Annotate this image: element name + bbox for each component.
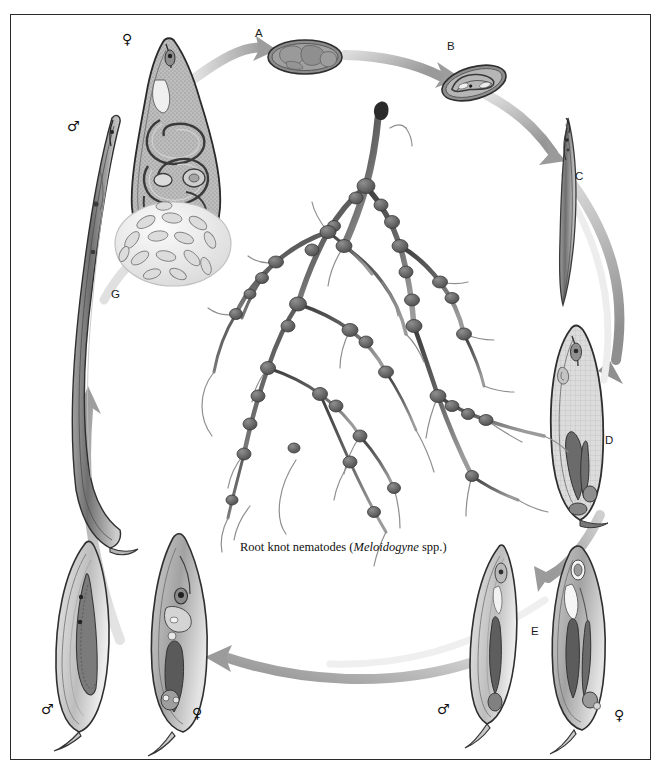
life-cycle-illustration bbox=[0, 0, 664, 774]
stage-label-e: E bbox=[531, 625, 539, 637]
stage-e-female bbox=[550, 546, 605, 754]
male-symbol-adult-male: ♂ bbox=[67, 119, 80, 133]
figure-caption: Root knot nematodes (Meloidogyne spp.) bbox=[240, 540, 500, 555]
stage-label-d: D bbox=[605, 434, 614, 446]
stage-e-male bbox=[465, 545, 517, 748]
stage-label-b: B bbox=[447, 40, 455, 52]
female-symbol-bottom-right: ♀ bbox=[614, 708, 624, 722]
adult-male-vermiform bbox=[73, 115, 138, 554]
caption-scientific-name: Meloidogyne bbox=[354, 540, 419, 554]
stage-label-c: C bbox=[575, 170, 584, 182]
mature-female-in-root bbox=[148, 534, 207, 756]
egg-mass bbox=[115, 201, 231, 286]
caption-prefix: Root knot nematodes ( bbox=[240, 540, 354, 554]
mature-male-in-root bbox=[54, 541, 109, 751]
stage-label-a: A bbox=[255, 27, 263, 39]
male-symbol-bottom-right: ♂ bbox=[437, 702, 450, 716]
stage-label-g: G bbox=[111, 288, 120, 300]
female-symbol-bottom-left: ♀ bbox=[192, 706, 202, 720]
stage-c-j2-juvenile bbox=[560, 118, 576, 305]
stage-a-egg bbox=[268, 40, 342, 74]
caption-suffix: spp.) bbox=[419, 540, 447, 554]
male-symbol-bottom-left: ♂ bbox=[41, 702, 54, 716]
stage-d-swollen-juvenile bbox=[551, 326, 608, 528]
galled-root-system bbox=[202, 102, 568, 566]
female-symbol-adult-female: ♀ bbox=[122, 32, 132, 46]
